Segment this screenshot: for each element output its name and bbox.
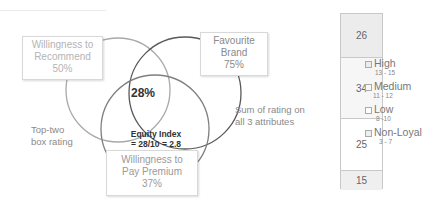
brand-pct: 75% [201, 59, 267, 71]
equity-title: Equity Index [118, 129, 194, 139]
brand-line1: Favourite [201, 35, 267, 47]
legend-swatch-icon [365, 107, 372, 114]
legend-swatch-icon [365, 130, 372, 137]
label-box-premium: Willingness to Pay Premium 37% [106, 150, 198, 196]
intersection-percentage: 28% [131, 86, 155, 100]
recommend-pct: 50% [23, 63, 102, 75]
premium-pct: 37% [107, 178, 197, 190]
loyalty-stacked-bar: 26 34 25 15 [340, 13, 383, 189]
sum-line1: Sum of rating on [235, 104, 305, 116]
legend-label: High [374, 58, 396, 69]
sum-rating-note: Sum of rating on all 3 attributes [235, 104, 305, 128]
label-box-brand: Favourite Brand 75% [200, 32, 268, 76]
legend-range: 11 - 12 [373, 92, 393, 100]
legend-swatch-icon [365, 61, 372, 68]
legend-range: 8 -10 [376, 115, 391, 123]
equity-formula: = 28/10 = 2.8 [118, 139, 194, 149]
brand-line2: Brand [201, 47, 267, 59]
label-box-recommend: Willingness to Recommend 50% [22, 36, 103, 80]
top-two-line1: Top-two [31, 124, 73, 136]
legend-swatch-icon [365, 84, 372, 91]
legend-label: Medium [374, 81, 411, 92]
sum-line2: all 3 attributes [235, 116, 305, 128]
legend-label: Non-Loyal [374, 127, 422, 138]
bar-segment-non-loyal: 15 [341, 171, 382, 190]
equity-index: Equity Index = 28/10 = 2.8 [118, 129, 194, 149]
top-two-line2: box rating [31, 136, 73, 148]
premium-line2: Pay Premium [107, 166, 197, 178]
legend-label: Low [374, 104, 393, 115]
legend-range: 13 - 15 [375, 69, 395, 77]
bar-segment-high: 26 [341, 14, 382, 58]
top-two-box-note: Top-two box rating [31, 124, 73, 148]
premium-line1: Willingness to [107, 154, 197, 166]
recommend-line2: Recommend [23, 51, 102, 63]
recommend-line1: Willingness to [23, 39, 102, 51]
legend-range: 3 - 7 [379, 138, 392, 146]
